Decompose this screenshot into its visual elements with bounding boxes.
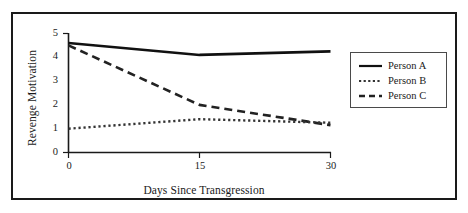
x-tick-label-0: 0 xyxy=(59,160,79,171)
y-tick-label-4: 4 xyxy=(44,50,58,61)
y-tick-label-5: 5 xyxy=(44,27,58,38)
chart-frame: Revenge Motivation Days Since Transgress… xyxy=(11,12,457,200)
series-line-person-c xyxy=(69,45,331,125)
legend-swatch-dotted-icon xyxy=(358,76,383,86)
legend-entry-person-c: Person C xyxy=(351,88,446,103)
y-tick-label-0: 0 xyxy=(44,146,58,157)
legend: Person A Person B Person C xyxy=(350,52,447,108)
legend-swatch-solid-icon xyxy=(358,61,383,71)
legend-label-person-c: Person C xyxy=(388,90,426,101)
x-tick-label-30: 30 xyxy=(321,160,341,171)
y-axis-title: Revenge Motivation xyxy=(26,33,38,163)
x-axis-title: Days Since Transgression xyxy=(89,184,319,196)
y-tick-label-2: 2 xyxy=(44,98,58,109)
legend-swatch-dashed-icon xyxy=(358,91,383,101)
legend-entry-person-a: Person A xyxy=(351,58,446,73)
legend-entry-person-b: Person B xyxy=(351,73,446,88)
figure: Revenge Motivation Days Since Transgress… xyxy=(0,0,468,213)
legend-label-person-a: Person A xyxy=(388,60,426,71)
series-line-person-a xyxy=(69,43,331,55)
x-tick-label-15: 15 xyxy=(190,160,210,171)
legend-label-person-b: Person B xyxy=(388,75,426,86)
y-tick-label-1: 1 xyxy=(44,122,58,133)
series-line-person-b xyxy=(69,119,331,129)
y-tick-label-3: 3 xyxy=(44,74,58,85)
